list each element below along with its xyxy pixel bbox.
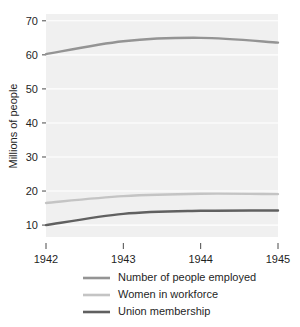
y-tick-label: 10 [26,219,38,231]
legend-label: Women in workforce [118,288,218,300]
y-tick-label: 40 [26,117,38,129]
y-tick-label: 60 [26,49,38,61]
line-chart: 10203040506070 Millions of people 194219… [0,0,300,327]
x-tick-label: 1943 [111,253,135,265]
x-tick-label: 1942 [34,253,58,265]
legend-label: Union membership [118,305,210,317]
legend-label: Number of people employed [118,271,256,283]
y-tick-label: 20 [26,185,38,197]
chart-figure: 10203040506070 Millions of people 194219… [0,0,300,327]
y-tick-label: 70 [26,15,38,27]
y-axis-title: Millions of people [7,84,19,169]
y-tick-label: 50 [26,83,38,95]
x-tick-label: 1944 [188,253,212,265]
x-tick-label: 1945 [266,253,290,265]
y-tick-label: 30 [26,151,38,163]
